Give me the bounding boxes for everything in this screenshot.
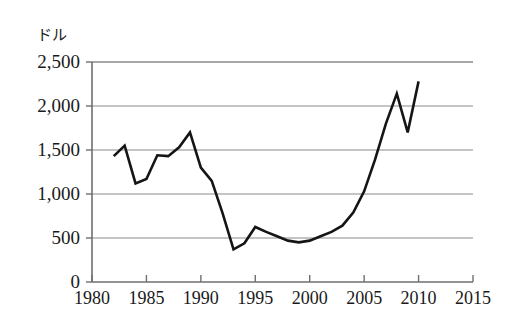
x-axis-tick-label: 1990	[183, 288, 219, 308]
data-series-line	[114, 81, 419, 249]
y-axis-tick-label: 2,000	[37, 95, 80, 116]
y-axis-tick-labels: 05001,0001,5002,0002,500	[37, 51, 80, 292]
line-chart: 05001,0001,5002,0002,500 198019851990199…	[0, 0, 510, 334]
x-axis-tick-label: 2015	[455, 288, 491, 308]
y-axis-ticks	[86, 62, 92, 282]
x-axis-tick-label: 2000	[292, 288, 328, 308]
x-axis-ticks	[92, 275, 473, 282]
x-axis-tick-label: 1985	[128, 288, 164, 308]
chart-figure: 05001,0001,5002,0002,500 198019851990199…	[0, 0, 510, 334]
x-axis-tick-label: 1980	[74, 288, 110, 308]
y-axis-tick-label: 500	[52, 227, 81, 248]
y-axis-tick-label: 1,000	[37, 183, 80, 204]
y-axis-unit-label: ドル	[37, 26, 67, 44]
x-axis-tick-label: 2005	[346, 288, 382, 308]
x-axis-tick-label: 2010	[401, 288, 437, 308]
y-axis-tick-label: 1,500	[37, 139, 80, 160]
x-axis-tick-label: 1995	[237, 288, 273, 308]
x-axis-tick-labels: 19801985199019952000200520102015	[74, 288, 491, 308]
y-axis-tick-label: 2,500	[37, 51, 80, 72]
